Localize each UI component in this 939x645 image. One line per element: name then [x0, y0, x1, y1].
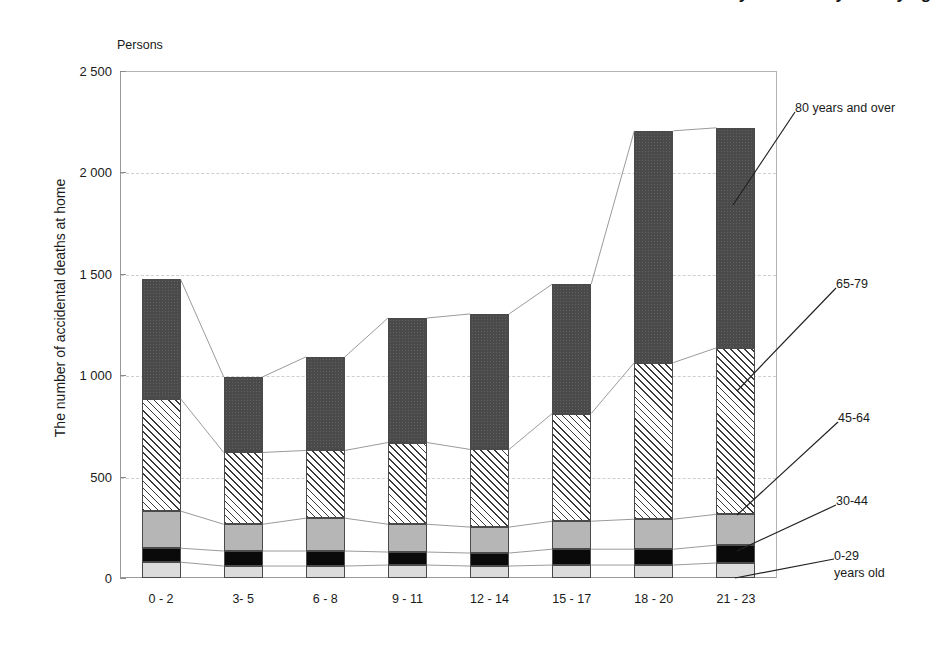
bar-segment[interactable]: [716, 348, 755, 514]
y-tick-label: 0: [42, 571, 112, 586]
bar-segment[interactable]: [388, 524, 427, 552]
bar-segment[interactable]: [716, 545, 755, 563]
plot-area: [120, 71, 777, 578]
gridline: [121, 275, 776, 276]
gridline: [121, 376, 776, 377]
bar-segment[interactable]: [470, 566, 509, 578]
y-tick-mark: [120, 375, 126, 376]
bar-segment[interactable]: [142, 548, 181, 562]
bar-segment[interactable]: [634, 565, 673, 578]
bar-segment[interactable]: [142, 511, 181, 548]
bar-segment[interactable]: [634, 519, 673, 549]
y-tick-mark: [120, 578, 126, 579]
bar-segment[interactable]: [552, 284, 591, 413]
gridline: [121, 478, 776, 479]
bar-8[interactable]: [716, 71, 755, 578]
bar-segment[interactable]: [306, 518, 345, 551]
y-axis-title: The number of accidental deaths at home: [52, 98, 68, 518]
bar-1[interactable]: [142, 71, 181, 578]
bar-segment[interactable]: [306, 551, 345, 566]
y-tick-mark: [120, 274, 126, 275]
bar-4[interactable]: [388, 71, 427, 578]
bar-segment[interactable]: [470, 553, 509, 566]
bar-segment[interactable]: [470, 449, 509, 527]
y-axis-unit-label: Persons: [117, 38, 163, 52]
x-tick-label: 12 - 14: [445, 592, 535, 606]
bar-segment[interactable]: [388, 565, 427, 578]
bar-segment[interactable]: [716, 128, 755, 348]
x-tick-label: 0 - 2: [116, 592, 206, 606]
bar-segment[interactable]: [470, 314, 509, 449]
x-tick-label: 18 - 20: [609, 592, 699, 606]
x-tick-label: 3- 5: [198, 592, 288, 606]
bar-segment[interactable]: [634, 363, 673, 520]
gridline: [121, 173, 776, 174]
bar-segment[interactable]: [552, 414, 591, 522]
bar-segment[interactable]: [224, 524, 263, 551]
bar-segment[interactable]: [388, 443, 427, 525]
bar-segment[interactable]: [388, 552, 427, 565]
legend-text-65-79: 65-79: [836, 277, 868, 291]
bar-segment[interactable]: [306, 357, 345, 450]
bar-segment[interactable]: [716, 563, 755, 578]
y-tick-mark: [120, 477, 126, 478]
y-tick-label: 1 500: [42, 266, 112, 281]
legend-label-45-64: 45-64: [838, 410, 870, 427]
legend-text-45-64: 45-64: [838, 411, 870, 425]
bar-segment[interactable]: [552, 549, 591, 565]
bar-segment[interactable]: [634, 131, 673, 363]
bar-segment[interactable]: [552, 565, 591, 578]
chart-title: The number of accidental deaths at home …: [380, 0, 939, 4]
legend-text-0-29: 0-29: [834, 548, 885, 565]
bar-segment[interactable]: [142, 399, 181, 511]
bar-segment[interactable]: [388, 318, 427, 443]
bar-segment[interactable]: [224, 377, 263, 453]
y-tick-mark: [120, 71, 126, 72]
y-tick-label: 2 500: [42, 64, 112, 79]
bar-2[interactable]: [224, 71, 263, 578]
y-tick-mark: [120, 172, 126, 173]
bar-segment[interactable]: [470, 527, 509, 553]
bar-7[interactable]: [634, 71, 673, 578]
bar-segment[interactable]: [224, 452, 263, 524]
bar-segment[interactable]: [142, 562, 181, 578]
legend-label-65-79: 65-79: [836, 276, 868, 293]
bar-segment[interactable]: [552, 521, 591, 549]
legend-label-30-44: 30-44: [836, 493, 868, 510]
legend-label-80-plus: 80 years and over: [795, 100, 895, 117]
bar-segment[interactable]: [634, 549, 673, 565]
x-tick-label: 6 - 8: [280, 592, 370, 606]
x-tick-label: 21 - 23: [691, 592, 781, 606]
y-tick-label: 2 000: [42, 165, 112, 180]
bar-3[interactable]: [306, 71, 345, 578]
legend-text-0-29-suffix: years old: [834, 565, 885, 582]
bar-segment[interactable]: [306, 450, 345, 518]
bar-5[interactable]: [470, 71, 509, 578]
x-tick-label: 15 - 17: [527, 592, 617, 606]
x-tick-label: 9 - 11: [362, 592, 452, 606]
y-tick-label: 1 000: [42, 368, 112, 383]
bar-segment[interactable]: [224, 551, 263, 566]
bar-segment[interactable]: [142, 279, 181, 398]
bar-segment[interactable]: [306, 566, 345, 578]
legend-text-30-44: 30-44: [836, 494, 868, 508]
bar-6[interactable]: [552, 71, 591, 578]
legend-text-80-plus: 80 years and over: [795, 101, 895, 115]
legend-label-0-29: 0-29 years old: [834, 548, 885, 582]
chart-root: The number of accidental deaths at home …: [0, 0, 939, 645]
bar-segment[interactable]: [716, 514, 755, 545]
y-tick-label: 500: [42, 469, 112, 484]
bar-segment[interactable]: [224, 566, 263, 578]
